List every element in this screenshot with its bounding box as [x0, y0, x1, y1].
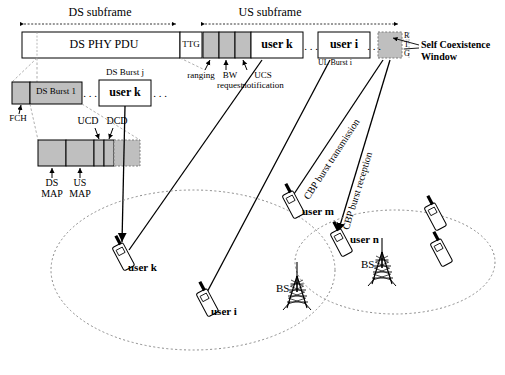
ds-subframe-label: DS subframe	[69, 6, 132, 19]
scw-letter-g: G	[404, 50, 410, 58]
user-i-terminal-label: user i	[211, 306, 237, 318]
map-remainder-block	[114, 140, 140, 166]
ttg-label: TTG	[182, 40, 200, 49]
us-user-i-label: user i	[330, 38, 358, 51]
bw-request-block	[219, 32, 235, 58]
fch-label: FCH	[9, 114, 27, 123]
bw-request-label-line2: request	[217, 81, 243, 90]
user-n-terminal-label: user n	[350, 234, 379, 246]
self-coexistence-window-box	[378, 32, 402, 58]
us-callout-arrows	[205, 60, 247, 70]
self-coexistence-window-line1: Self Coexistence	[421, 40, 490, 51]
ranging-label: ranging	[187, 71, 215, 80]
bs-label-right: BS	[361, 259, 374, 271]
ucd-block	[94, 140, 104, 166]
dcd-label: DCD	[106, 116, 127, 127]
ds-map-block	[38, 140, 66, 166]
ds-ellipsis-1: . . .	[83, 88, 97, 100]
self-coexistence-window-line2: Window	[421, 52, 457, 63]
ds-burst-j-label: DS Burst j	[106, 68, 144, 77]
handset-unlabeled-1	[420, 194, 447, 231]
user-m-terminal-label: user m	[302, 206, 334, 218]
us-map-label-line1: US	[74, 178, 87, 189]
user-k-terminal-label: user k	[128, 262, 157, 274]
ucs-notification-label-line2: notification	[242, 81, 284, 90]
ds-ellipsis-2: . . .	[153, 88, 167, 100]
ds-user-k-label: user k	[109, 86, 140, 99]
us-ellipsis-1: . . .	[304, 41, 318, 53]
bs-label-left: BS	[276, 283, 289, 295]
figure-canvas: DS subframe US subframe DS PHY PDU TTG u…	[0, 0, 505, 375]
ds-map-label-line1: DS	[46, 178, 59, 189]
ul-burst-i-label: UL Burst i	[318, 59, 352, 67]
handset-unlabeled-2	[426, 230, 453, 267]
us-ellipsis-2: . . .	[367, 41, 381, 53]
ds-map-label-line2: MAP	[41, 189, 63, 200]
ds-phy-pdu-label: DS PHY PDU	[70, 38, 139, 51]
us-map-block	[66, 140, 94, 166]
ucd-label: UCD	[77, 116, 98, 127]
handset-user-m	[278, 182, 305, 219]
fch-block	[12, 82, 30, 104]
ranging-block	[203, 32, 219, 58]
dcd-block	[104, 140, 114, 166]
ucs-notification-block	[235, 32, 251, 58]
us-user-k-label: user k	[261, 38, 292, 51]
ds-burst-1-label: DS Burst 1	[36, 87, 76, 96]
right-cell-boundary	[295, 210, 495, 314]
us-subframe-label: US subframe	[239, 6, 302, 19]
us-map-label-line2: MAP	[69, 189, 91, 200]
